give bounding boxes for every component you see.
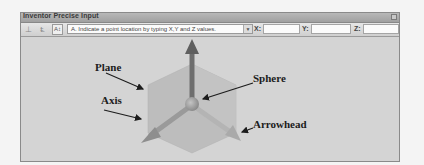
- x-input[interactable]: [263, 24, 300, 34]
- delta-mode-icon[interactable]: ⊥: [23, 24, 34, 35]
- axis-label: Axis: [101, 94, 122, 106]
- dropdown-selected-value: A. Indicate a point location by typing X…: [71, 25, 216, 34]
- window-title: Inventor Precise Input: [23, 12, 99, 19]
- input-mode-dropdown[interactable]: A. Indicate a point location by typing X…: [67, 24, 253, 34]
- title-bar[interactable]: Inventor Precise Input: [21, 13, 399, 23]
- z-label: Z:: [354, 24, 361, 34]
- triad-graphic: [21, 37, 399, 162]
- chevron-down-icon[interactable]: ▼: [243, 25, 252, 33]
- x-label: X:: [254, 24, 261, 34]
- y-label: Y:: [302, 24, 308, 34]
- triad-illustration: Plane Axis Sphere Arrowhead: [21, 37, 399, 161]
- sphere-label: Sphere: [253, 72, 286, 84]
- arrowhead-label: Arrowhead: [253, 118, 307, 130]
- origin-mode-icon[interactable]: Ⱡ: [37, 24, 48, 35]
- precise-input-icon[interactable]: A↕: [52, 24, 63, 35]
- close-button[interactable]: [391, 14, 397, 20]
- toolbar: ⊥ Ⱡ A↕ A. Indicate a point location by t…: [21, 23, 399, 37]
- plane-label: Plane: [95, 61, 121, 73]
- precise-input-panel: Inventor Precise Input ⊥ Ⱡ A↕ A. Indicat…: [20, 12, 400, 162]
- z-input[interactable]: [363, 24, 399, 34]
- y-input[interactable]: [311, 24, 351, 34]
